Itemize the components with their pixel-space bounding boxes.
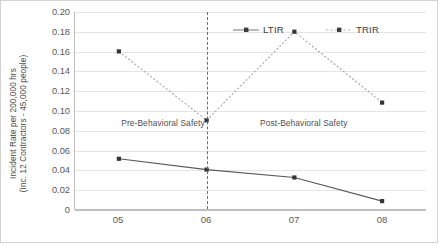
plot-area: LTIR TRIR Pre-Behavioral SafetyPost-Beha… xyxy=(74,12,426,210)
chart-annotation: Post-Behavioral Safety xyxy=(260,118,347,128)
y-axis-tick-label: 0.20 xyxy=(52,7,70,17)
gridline xyxy=(75,210,426,211)
legend-label-ltir: LTIR xyxy=(263,24,284,35)
data-point-marker-ltir xyxy=(292,175,296,179)
x-axis-tick-labels: 05060708 xyxy=(74,214,426,234)
legend-item-trir: TRIR xyxy=(326,24,379,35)
series-lines xyxy=(75,12,426,209)
data-point-marker-trir xyxy=(117,49,121,53)
y-axis-tick-label: 0.02 xyxy=(52,185,70,195)
y-axis-tick-label: 0 xyxy=(65,205,70,215)
y-axis-tick-label: 0.06 xyxy=(52,146,70,156)
y-axis-tick-label: 0.12 xyxy=(52,86,70,96)
x-axis-tick-label: 05 xyxy=(113,214,124,225)
legend-swatch-trir-icon xyxy=(326,25,352,35)
x-axis-tick-label: 07 xyxy=(289,214,300,225)
series-line-ltir xyxy=(119,159,382,201)
chart-annotation: Pre-Behavioral Safety xyxy=(121,118,205,128)
data-point-marker-trir xyxy=(380,101,384,105)
legend-label-trir: TRIR xyxy=(356,24,379,35)
chart-legend: LTIR TRIR xyxy=(233,24,379,35)
y-axis-tick-label: 0.08 xyxy=(52,126,70,136)
behavioral-safety-divider-line xyxy=(207,12,208,209)
y-axis-tick-label: 0.16 xyxy=(52,47,70,57)
x-axis-tick-label: 08 xyxy=(377,214,388,225)
series-line-trir xyxy=(119,32,382,121)
data-point-marker-ltir xyxy=(380,199,384,203)
y-axis-title-line1: Incident Rate per 200,000 hrs xyxy=(9,55,19,193)
y-axis-tick-label: 0.14 xyxy=(52,66,70,76)
chart-container: Incident Rate per 200,000 hrs (Inc. 12 C… xyxy=(0,0,438,243)
y-axis-tick-labels: 0.200.180.160.140.120.100.080.060.040.02… xyxy=(37,12,73,210)
y-axis-tick-label: 0.04 xyxy=(52,165,70,175)
legend-item-ltir: LTIR xyxy=(233,24,284,35)
y-axis-tick-label: 0.18 xyxy=(52,27,70,37)
y-axis-title: Incident Rate per 200,000 hrs (Inc. 12 C… xyxy=(1,1,37,245)
legend-swatch-ltir-icon xyxy=(233,25,259,35)
x-axis-tick-label: 06 xyxy=(201,214,212,225)
y-axis-tick-label: 0.10 xyxy=(52,106,70,116)
y-axis-title-line2: (Inc. 12 Contractors - 45,000 people) xyxy=(19,55,29,193)
data-point-marker-ltir xyxy=(117,157,121,161)
